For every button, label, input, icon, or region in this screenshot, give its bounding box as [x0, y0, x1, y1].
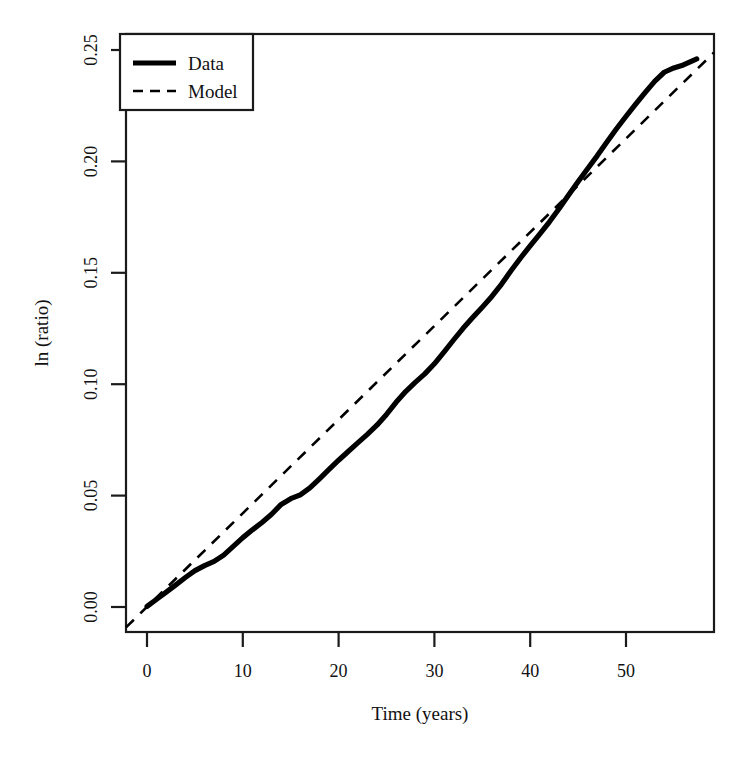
y-tick-label: 0.25 [81, 34, 101, 66]
y-axis-title: ln (ratio) [31, 299, 53, 366]
x-tick-label: 20 [330, 661, 348, 681]
legend-label-data: Data [188, 53, 224, 74]
y-tick-label: 0.10 [81, 368, 101, 400]
x-tick-label: 50 [617, 661, 635, 681]
x-tick-label: 10 [234, 661, 252, 681]
y-tick-label: 0.05 [81, 480, 101, 512]
y-tick-label: 0.15 [81, 257, 101, 289]
x-tick-label: 40 [521, 661, 539, 681]
chart-figure: 0 10 20 30 40 50 0.00 0.05 0.10 0.15 0.2… [0, 0, 752, 757]
x-axis-title: Time (years) [372, 703, 469, 725]
x-tick-label: 30 [425, 661, 443, 681]
legend: Data Model [120, 34, 253, 110]
legend-label-model: Model [188, 81, 238, 102]
y-tick-label: 0.00 [81, 591, 101, 623]
figure-background [0, 0, 752, 757]
y-tick-label: 0.20 [81, 146, 101, 178]
x-tick-label: 0 [143, 661, 152, 681]
